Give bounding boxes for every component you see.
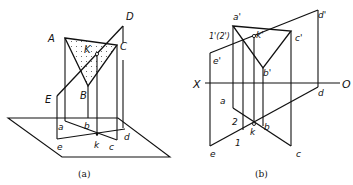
label-1-2-prime: 1'(2') <box>209 32 230 41</box>
point-K-marker <box>95 52 98 55</box>
label-O: O <box>342 78 351 91</box>
label-a-prime: a' <box>233 12 241 22</box>
label-c-prime: c' <box>295 33 302 43</box>
label-d: d <box>124 132 130 142</box>
point-k-marker <box>96 133 99 136</box>
caption-b: (b) <box>255 169 268 179</box>
label-2: 2 <box>232 117 238 127</box>
label-k-prime: k' <box>256 30 264 40</box>
projection-diagram: A K C D E B a b e k c d (a) a' <box>0 0 353 185</box>
point-k-marker <box>253 123 256 126</box>
label-D: D <box>126 11 134 22</box>
label-b: b <box>264 122 270 132</box>
caption-a: (a) <box>78 169 90 179</box>
top-line-ed <box>210 87 318 146</box>
label-1: 1 <box>235 138 241 148</box>
label-B: B <box>80 90 87 101</box>
label-b-prime: b' <box>263 68 271 78</box>
label-e-prime: e' <box>213 56 221 66</box>
label-X: X <box>192 78 201 91</box>
label-C: C <box>120 41 127 52</box>
label-d: d <box>318 88 324 98</box>
figure-a: A K C D E B a b e k c d (a) <box>8 11 170 179</box>
label-a: a <box>58 122 64 132</box>
label-c: c <box>109 142 114 152</box>
line-de <box>57 26 123 96</box>
figure-b: a' d' 1'(2') k' c' e' b' X O d a 2 b k 1… <box>192 10 351 179</box>
label-E: E <box>45 94 52 105</box>
top-line-ac <box>233 108 291 146</box>
label-d-prime: d' <box>318 10 326 20</box>
label-k: k <box>94 140 100 150</box>
label-e: e <box>210 149 216 159</box>
label-e: e <box>57 142 63 152</box>
label-b: b <box>84 121 90 131</box>
label-c: c <box>296 149 301 159</box>
label-a: a <box>220 96 226 106</box>
label-A: A <box>47 33 55 44</box>
label-k: k <box>250 127 256 137</box>
